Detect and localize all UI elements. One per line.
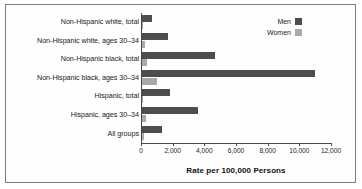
chart-screenshot: Non-Hispanic white, totalNon-Hispanic wh… (0, 0, 362, 189)
category-label: Non-Hispanic black, ages 30–34 (12, 74, 139, 82)
bar-group (141, 106, 331, 125)
x-axis-tick-label: 10,000 (289, 147, 309, 154)
bar-men (141, 107, 198, 114)
bar-men (141, 70, 315, 77)
legend-item: Men (247, 16, 302, 27)
x-axis-tick (173, 143, 174, 146)
x-axis-tick (331, 143, 332, 146)
bar-group (141, 69, 331, 88)
category-label: Non-Hispanic white, ages 30–34 (12, 37, 139, 45)
bar-women (141, 78, 157, 85)
legend-swatch-men (295, 18, 302, 25)
x-axis-tick-label: 6,000 (228, 147, 245, 154)
x-axis-tick (236, 143, 237, 146)
x-axis-tick-label: 12,000 (321, 147, 341, 154)
bar-men (141, 52, 215, 59)
x-axis-tick (299, 143, 300, 146)
bar-men (141, 89, 170, 96)
bar-group (141, 32, 331, 51)
x-axis-tick-label: 8,000 (259, 147, 276, 154)
category-label: Non-Hispanic white, total (12, 18, 139, 26)
category-label: Hispanic, ages 30–34 (12, 111, 139, 119)
x-axis-tick (204, 143, 205, 146)
x-axis-tick (268, 143, 269, 146)
x-axis-tick-label: 2,000 (164, 147, 181, 154)
legend-swatch-women (295, 29, 302, 36)
legend-label: Men (277, 18, 291, 25)
category-label: Non-Hispanic black, total (12, 55, 139, 63)
bar-men (141, 126, 162, 133)
legend-item: Women (247, 27, 302, 38)
bar-group (141, 13, 331, 32)
bar-group (141, 124, 331, 143)
category-label: All groups (12, 130, 139, 138)
chart-legend: MenWomen (247, 16, 302, 38)
x-axis-tick-label: 0 (139, 147, 143, 154)
bar-men (141, 33, 168, 40)
category-label: Hispanic, total (12, 92, 139, 100)
y-axis-line (141, 13, 142, 143)
plot-area (141, 13, 331, 143)
bar-group (141, 50, 331, 69)
legend-label: Women (267, 29, 291, 36)
bar-group (141, 87, 331, 106)
x-axis-title: Rate per 100,000 Persons (141, 166, 331, 175)
bar-men (141, 15, 152, 22)
x-axis-tick (141, 143, 142, 146)
category-axis-labels: Non-Hispanic white, totalNon-Hispanic wh… (12, 13, 139, 143)
bar-chart: Non-Hispanic white, totalNon-Hispanic wh… (0, 0, 362, 189)
x-axis-tick-label: 4,000 (196, 147, 213, 154)
